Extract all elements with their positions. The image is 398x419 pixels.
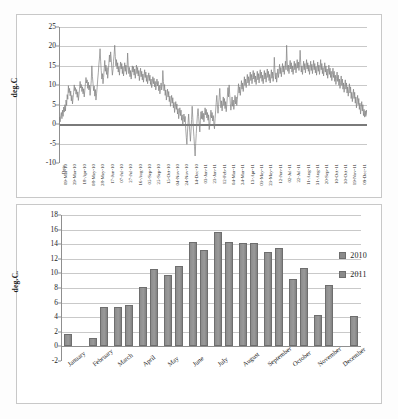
line-chart: deg.C -10-50510152025 09-Mar-1029-Mar-10…: [16, 14, 382, 198]
line-chart-x-axis-label: Date: [61, 165, 66, 174]
x-tick-label: 25-Sep-10: [156, 164, 161, 184]
x-tick-label: 18-Apr-10: [82, 164, 87, 185]
bar-november-2011: [325, 285, 333, 346]
x-tick-label: 31-Aug-11: [315, 164, 320, 185]
legend-label-2011: 2011: [350, 270, 367, 279]
legend-label-2010: 2010: [350, 251, 367, 260]
bar-july-2011: [225, 242, 233, 346]
x-tick-label: 07-Jul-10: [119, 164, 124, 183]
legend-item-2011: 2011: [339, 270, 367, 279]
x-tick-label: 30-Oct-11: [343, 164, 348, 184]
y-tick-label: -10: [46, 159, 56, 167]
figure-container: deg.C -10-50510152025 09-Mar-1029-Mar-10…: [0, 0, 398, 419]
bar-may-2010: [164, 275, 172, 347]
bar-march-2011: [125, 305, 133, 347]
y-tick-label: 10: [48, 81, 56, 89]
x-tick-label: 23-May-11: [268, 164, 273, 186]
x-tick-label: 13-Apr-11: [250, 164, 255, 184]
y-tick-label: 10: [50, 269, 58, 277]
x-tick-label: 24-Nov-10: [184, 164, 189, 185]
x-tick-label: 08-May-10: [91, 164, 96, 186]
x-tick-label: 29-Mar-10: [72, 164, 77, 185]
legend-swatch-2011: [339, 271, 346, 278]
bar-february-2011: [100, 307, 108, 346]
y-tick-label: 16: [50, 226, 58, 234]
x-tick-label: 22-Jul-11: [296, 164, 301, 183]
bar-june-2011: [200, 250, 208, 347]
line-chart-y-axis-label: deg.C: [10, 58, 19, 118]
bar-january-2010: [64, 334, 72, 346]
y-tick-label: 15: [48, 62, 56, 70]
x-tick-label: 16-Aug-10: [138, 164, 143, 185]
line-chart-series-path: [59, 27, 367, 163]
x-tick-label: 09-Dec-11: [362, 164, 367, 185]
x-tick-label: 17-Jun-10: [110, 164, 115, 184]
bar-september-2011: [275, 248, 283, 347]
bar-may-2011: [175, 266, 183, 346]
bar-november-2010: [314, 315, 322, 347]
legend-item-2010: 2010: [339, 251, 367, 260]
bar-february-2010: [89, 338, 97, 347]
bar-chart-plot-area: -2024681012141618: [61, 215, 361, 361]
bar-chart-x-tick-labels: JanuaryFebruaryMarchAprilMayJuneJulyAugu…: [61, 362, 361, 414]
bar-chart: deg.C. -2024681012141618 JanuaryFebruary…: [16, 204, 382, 404]
y-tick-label: 12: [50, 255, 58, 263]
x-tick-label: 14-Dec-10: [194, 164, 199, 185]
x-tick-label: 12-Jun-11: [278, 164, 283, 184]
bar-april-2011: [150, 269, 158, 346]
bar-september-2010: [264, 252, 272, 347]
x-tick-label: 11-Aug-11: [306, 164, 311, 185]
x-tick-label: 19-Nov-11: [352, 164, 357, 185]
x-tick-label: 02-Jul-11: [287, 164, 292, 183]
bar-july-2010: [214, 232, 222, 346]
bar-chart-y-axis-label: deg.C.: [11, 252, 20, 312]
bar-june-2010: [189, 242, 197, 346]
x-tick-label: 24-Mar-11: [240, 164, 245, 185]
x-tick-label: 10-Oct-11: [334, 164, 339, 184]
x-tick-label: 20-Sep-11: [324, 164, 329, 184]
x-tick-label: 12-Feb-11: [222, 164, 227, 184]
y-tick-label: 14: [50, 240, 58, 248]
bar-october-2010: [289, 279, 297, 347]
bar-april-2010: [139, 287, 147, 347]
y-tick-label: 25: [48, 23, 56, 31]
y-tick-label: 18: [50, 211, 58, 219]
line-chart-plot-area: -10-50510152025: [59, 27, 367, 163]
legend-swatch-2010: [339, 252, 346, 259]
x-tick-label: 04-Nov-10: [175, 164, 180, 185]
x-tick-label: 05-Sep-10: [147, 164, 152, 184]
y-tick-label: 20: [48, 42, 56, 50]
bar-chart-legend: 2010 2011: [339, 251, 367, 289]
x-tick-label: 28-May-10: [100, 164, 105, 186]
bar-august-2010: [239, 243, 247, 346]
x-tick-label: 23-Jan-11: [212, 164, 217, 183]
x-tick-label: 04-Mar-11: [231, 164, 236, 185]
x-tick-label: 03-May-11: [259, 164, 264, 186]
x-tick-label: 03-Jan-11: [203, 164, 208, 183]
bar-march-2010: [114, 307, 122, 346]
bar-december-2011: [350, 316, 358, 346]
bar-october-2011: [300, 268, 308, 347]
x-tick-label: 15-Oct-10: [166, 164, 171, 184]
bar-chart-bars: [61, 215, 361, 361]
x-tick-label: 27-Jul-10: [128, 164, 133, 183]
bar-august-2011: [250, 243, 258, 346]
